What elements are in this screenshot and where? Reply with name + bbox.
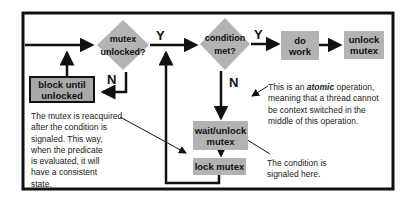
block-until-unlocked-box: block untilunlocked (29, 76, 95, 103)
mutex-unlocked-line1: mutex (97, 34, 149, 45)
atomic-note: This is an atomic operation, meaning tha… (268, 82, 379, 127)
atomic-note-emphasis: atomic (307, 82, 334, 92)
reacquire-note-line6: have a consistent (31, 167, 122, 178)
condition-no-label: N (229, 75, 238, 90)
reacquire-note-line5: is evaluated, it will (31, 156, 122, 167)
reacquire-note-line2: after the condition is (31, 122, 122, 133)
atomic-note-line4: middle of this operation. (268, 116, 379, 127)
reacquire-note-line7: state. (31, 179, 122, 190)
signaled-note-line2: signaled here. (267, 169, 327, 180)
condition-met-line2: met? (198, 46, 252, 57)
atomic-note-line3: be context switched in the (268, 105, 379, 116)
mutex-yes-label: Y (156, 28, 165, 43)
wait-unlock-mutex-line1: wait/unlock (195, 125, 247, 136)
block-until-unlocked-line1: block until (38, 79, 86, 90)
reacquire-note-line1: The mutex is reacquired (31, 111, 122, 122)
atomic-note-suffix: operation, (334, 82, 374, 92)
reacquire-note-line3: signaled. This way, (31, 134, 122, 145)
block-until-unlocked-line2: unlocked (38, 90, 86, 101)
unlock-mutex-line1: unlock (349, 34, 380, 45)
unlock-mutex-box: unlockmutex (344, 31, 384, 59)
mutex-no-label: N (107, 72, 116, 87)
atomic-note-line2: meaning that a thread cannot (268, 93, 379, 104)
unlock-mutex-line2: mutex (349, 45, 380, 56)
do-work-line1: do (289, 35, 311, 46)
reacquire-note: The mutex is reacquired after the condit… (31, 111, 122, 190)
signaled-note-line1: The condition is (267, 158, 327, 169)
do-work-box: dowork (281, 31, 319, 60)
reacquire-note-line4: when the predicate (31, 145, 122, 156)
wait-unlock-mutex-line2: mutex (195, 136, 247, 147)
do-work-line2: work (289, 46, 311, 57)
lock-mutex-label: lock mutex (195, 161, 245, 172)
mutex-unlocked-line2: unlocked? (97, 47, 149, 58)
mutex-unlocked-decision: mutex unlocked? (97, 34, 149, 58)
lock-mutex-box: lock mutex (193, 158, 246, 175)
condition-met-line1: condition (198, 33, 252, 44)
condition-met-decision: condition met? (198, 33, 252, 57)
wait-unlock-mutex-box: wait/unlockmutex (193, 121, 248, 150)
signaled-note: The condition is signaled here. (267, 158, 327, 181)
condition-yes-label: Y (254, 27, 263, 42)
atomic-note-prefix: This is an (268, 82, 307, 92)
